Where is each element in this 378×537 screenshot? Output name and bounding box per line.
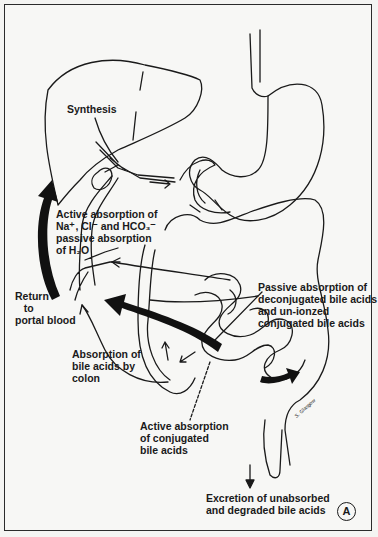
ileum-arrow xyxy=(260,368,300,384)
main-reabsorption-arrow xyxy=(104,294,222,352)
label-excretion: Excretion of unabsorbed and degraded bil… xyxy=(206,492,330,516)
rectum xyxy=(264,420,282,478)
stomach xyxy=(190,84,324,221)
anatomy-illustration xyxy=(0,0,378,537)
label-passive-absorption: Passive absorption of deconjugated bile … xyxy=(258,281,377,329)
panel-label-badge: A xyxy=(337,502,356,521)
label-absorption-by-colon: Absorption of bile acids by colon xyxy=(72,348,141,384)
label-active-absorption-ions: Active absorption of Na⁺, Cl⁻ and HCO₃⁻ … xyxy=(56,208,158,256)
passive-absorption-arrow xyxy=(112,262,230,280)
duodenum xyxy=(180,160,230,213)
label-return-to-portal-blood: Return to portal blood xyxy=(15,290,76,326)
enterohepatic-circulation-diagram: Synthesis Active absorption of Na⁺, Cl⁻ … xyxy=(0,0,378,537)
label-active-absorption-conjugated: Active absorption of conjugated bile aci… xyxy=(140,420,229,456)
esophagus xyxy=(250,30,268,97)
liver-outline xyxy=(45,60,202,205)
label-synthesis: Synthesis xyxy=(67,103,117,115)
